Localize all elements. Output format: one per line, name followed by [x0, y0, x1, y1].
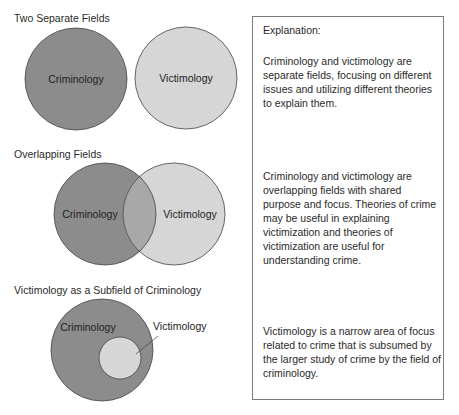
- explanation-box: Explanation: Criminology and victimology…: [252, 16, 444, 400]
- criminology-label: Criminology: [62, 208, 118, 220]
- victimology-label: Victimology: [153, 320, 207, 332]
- explanation-heading: Explanation:: [263, 23, 441, 37]
- explanation-separate: Criminology and victimology are separate…: [263, 54, 441, 110]
- victimology-label: Victimology: [159, 72, 213, 84]
- explanation-subfield: Victimology is a narrow area of focus re…: [263, 324, 441, 380]
- explanation-overlapping: Criminology and victimology are overlapp…: [263, 169, 441, 267]
- separate-fields-diagram: Criminology Victimology: [25, 27, 237, 130]
- venn-diagrams: Criminology Victimology Criminology Vict…: [0, 0, 250, 415]
- criminology-label: Criminology: [48, 73, 104, 85]
- overlapping-fields-diagram: Criminology Victimology: [54, 163, 225, 265]
- subfield-diagram: Criminology Victimology: [51, 299, 207, 401]
- victimology-circle: [99, 337, 141, 379]
- criminology-label: Criminology: [60, 321, 116, 333]
- victimology-label: Victimology: [163, 208, 217, 220]
